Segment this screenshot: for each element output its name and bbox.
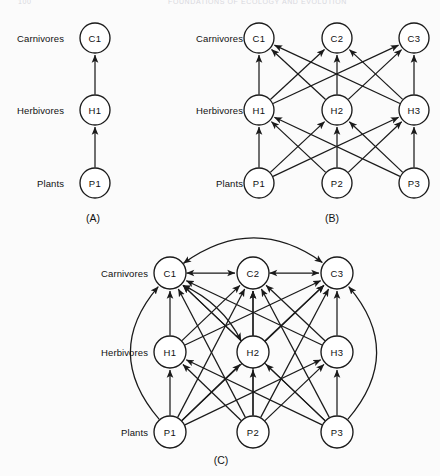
food-web-diagram: C1H1P1C1C2C3H1H2H3P1P2P3C1C2C3H1H2H3P1P2… <box>0 0 440 476</box>
food-web-node[interactable]: C1 <box>154 257 186 289</box>
node-label: P3 <box>331 427 343 438</box>
food-web-node[interactable]: P3 <box>321 416 353 448</box>
node-label: C1 <box>164 268 177 279</box>
trophic-level-label: Plants <box>216 178 243 189</box>
node-label: C2 <box>331 33 344 44</box>
panel-caption: (B) <box>325 212 339 224</box>
food-web-node[interactable]: H2 <box>237 336 269 368</box>
food-web-node[interactable]: P1 <box>244 168 274 198</box>
node-label: P1 <box>89 178 101 189</box>
trophic-level-label: Carnivores <box>196 33 243 44</box>
panel-caption: (C) <box>214 454 229 466</box>
trophic-level-label: Plants <box>121 427 148 438</box>
trophic-level-label: Herbivores <box>196 105 243 116</box>
node-label: H1 <box>164 347 177 358</box>
panel-caption: (A) <box>86 212 100 224</box>
node-label: H1 <box>89 105 102 116</box>
node-label: H2 <box>331 105 344 116</box>
node-label: P1 <box>253 178 265 189</box>
food-web-node[interactable]: H3 <box>399 95 429 125</box>
food-web-node[interactable]: H3 <box>321 336 353 368</box>
trophic-level-label: Herbivores <box>101 347 148 358</box>
food-web-node[interactable]: C3 <box>399 23 429 53</box>
trophic-level-label: Plants <box>37 178 64 189</box>
food-web-node[interactable]: H1 <box>80 95 110 125</box>
food-web-node[interactable]: P2 <box>237 416 269 448</box>
food-web-node[interactable]: C1 <box>244 23 274 53</box>
food-web-node[interactable]: H1 <box>244 95 274 125</box>
node-label: C1 <box>89 33 102 44</box>
food-web-node[interactable]: P1 <box>154 416 186 448</box>
node-label: P3 <box>408 178 420 189</box>
nodes-layer: C1H1P1C1C2C3H1H2H3P1P2P3C1C2C3H1H2H3P1P2… <box>80 23 429 448</box>
node-label: C3 <box>331 268 344 279</box>
text-layer: CarnivoresHerbivoresPlants(A)CarnivoresH… <box>17 33 339 467</box>
node-label: C1 <box>253 33 266 44</box>
food-web-node[interactable]: C3 <box>321 257 353 289</box>
node-label: P2 <box>331 178 343 189</box>
trophic-level-label: Carnivores <box>101 268 148 279</box>
node-label: P1 <box>164 427 176 438</box>
food-web-node[interactable]: C1 <box>80 23 110 53</box>
food-web-node[interactable]: C2 <box>322 23 352 53</box>
trophic-level-label: Herbivores <box>17 105 64 116</box>
food-web-node[interactable]: P2 <box>322 168 352 198</box>
node-label: H1 <box>253 105 266 116</box>
food-web-figure: 100 FOUNDATIONS OF ECOLOGY AND EVOLUTION… <box>0 0 440 476</box>
node-label: P2 <box>247 427 259 438</box>
node-label: C2 <box>247 268 260 279</box>
trophic-level-label: Carnivores <box>17 33 64 44</box>
node-label: H2 <box>247 347 260 358</box>
node-label: H3 <box>331 347 344 358</box>
food-web-node[interactable]: P3 <box>399 168 429 198</box>
food-web-node[interactable]: H1 <box>154 336 186 368</box>
node-label: C3 <box>408 33 421 44</box>
food-web-node[interactable]: H2 <box>322 95 352 125</box>
food-web-node[interactable]: C2 <box>237 257 269 289</box>
food-web-node[interactable]: P1 <box>80 168 110 198</box>
node-label: H3 <box>408 105 421 116</box>
